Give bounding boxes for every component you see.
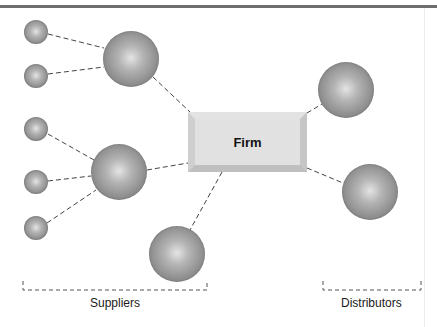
link-firm-d1	[307, 104, 322, 113]
supplier-node-large-3	[149, 226, 205, 282]
supplier-node-small-1	[24, 20, 48, 44]
firm-node: Firm	[188, 112, 307, 172]
link-firm-d2	[307, 168, 343, 183]
supplier-node-small-5	[24, 216, 48, 240]
supplier-node-small-2	[24, 64, 48, 88]
supplier-node-small-3	[24, 117, 48, 141]
suppliers-label: Suppliers	[90, 296, 140, 310]
link-s5-l2	[47, 190, 96, 223]
link-s2-l1	[48, 67, 104, 74]
firm-label: Firm	[233, 135, 261, 150]
link-s1-l1	[48, 34, 104, 48]
link-s3-l2	[48, 134, 94, 160]
supplier-node-small-4	[24, 170, 48, 194]
link-l1-firm	[153, 77, 190, 112]
suppliers-bracket	[23, 281, 207, 290]
link-l3-firm	[190, 172, 222, 230]
supplier-node-large-1	[103, 31, 159, 87]
distributor-node-1	[318, 62, 374, 118]
link-l2-firm	[147, 163, 188, 170]
distributors-label: Distributors	[341, 296, 402, 310]
distributor-node-2	[342, 164, 398, 220]
link-s4-l2	[48, 176, 91, 181]
firm-node-face: Firm	[195, 119, 300, 165]
supplier-node-large-2	[91, 144, 147, 200]
distributors-bracket	[323, 281, 421, 290]
